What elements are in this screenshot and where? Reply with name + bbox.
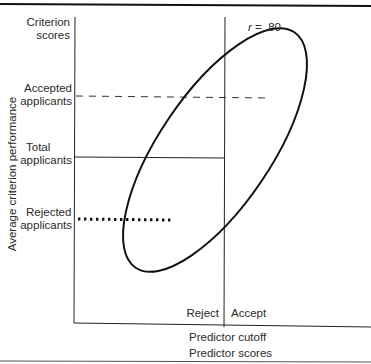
y-axis-title: Average criterion performance <box>6 94 18 254</box>
scatter-ellipse <box>89 1 341 299</box>
rejected-applicants-label: Rejected applicants <box>10 206 72 232</box>
x-axis-title: Predictor scores <box>189 347 272 360</box>
accept-region-label: Accept <box>231 307 266 320</box>
correlation-value: = .80 <box>255 21 281 33</box>
y-axis <box>74 17 75 323</box>
predictor-cutoff-line <box>224 17 225 327</box>
reject-region-label: Reject <box>170 307 219 320</box>
criterion-scores-label: Criterion scores <box>14 16 70 42</box>
accepted-applicants-line <box>76 96 270 98</box>
bottom-rule <box>0 361 371 362</box>
total-applicants-line <box>75 157 224 158</box>
top-rule <box>0 4 371 6</box>
correlation-label: r = .80 <box>248 21 281 34</box>
correlation-symbol: r <box>248 21 252 33</box>
x-axis <box>74 323 371 327</box>
accepted-applicants-label: Accepted applicants <box>10 82 72 108</box>
total-applicants-label: Total applicants <box>10 141 72 167</box>
predictor-cutoff-label: Predictor cutoff <box>189 331 266 344</box>
